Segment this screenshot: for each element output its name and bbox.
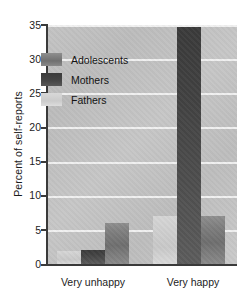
gridline-15 (47, 162, 237, 164)
legend-swatch-fathers (41, 93, 62, 106)
y-tick-label-10: 10 (5, 189, 41, 201)
y-tick-label-25: 25 (5, 87, 41, 99)
bar-chart-figure: Percent of self-reports 35 30 25 20 15 1… (0, 0, 248, 298)
y-tick-label-15: 15 (5, 155, 41, 167)
y-tick-label-5: 5 (5, 224, 41, 236)
legend-label-fathers: Fathers (71, 94, 107, 106)
bar-very-happy-fathers (153, 216, 177, 264)
y-tick-label-0: 0 (5, 258, 41, 270)
legend-item-mothers: Mothers (41, 73, 128, 86)
legend-swatch-adolescents (41, 53, 62, 66)
legend-swatch-mothers (41, 73, 62, 86)
bar-very-unhappy-mothers (81, 250, 105, 264)
y-tick-label-35: 35 (5, 19, 41, 31)
y-tick-label-20: 20 (5, 121, 41, 133)
legend-label-adolescents: Adolescents (71, 54, 128, 66)
bar-very-happy-adolescents (201, 216, 225, 264)
gridline-10 (47, 196, 237, 198)
gridline-20 (47, 127, 237, 129)
x-tick-label-very-happy: Very happy (148, 276, 238, 288)
x-tick-label-very-unhappy: Very unhappy (43, 276, 143, 288)
gridline-35 (47, 25, 237, 27)
y-tick-label-30: 30 (5, 53, 41, 65)
legend-label-mothers: Mothers (71, 74, 109, 86)
bar-very-unhappy-adolescents (105, 223, 129, 264)
x-axis-line (46, 264, 237, 266)
chart-legend: Adolescents Mothers Fathers (41, 53, 128, 106)
legend-item-adolescents: Adolescents (41, 53, 128, 66)
legend-item-fathers: Fathers (41, 93, 128, 106)
bar-very-unhappy-fathers (57, 251, 81, 264)
bar-very-happy-mothers (177, 27, 201, 264)
y-axis-ticks: 35 30 25 20 15 10 5 0 (0, 0, 41, 298)
